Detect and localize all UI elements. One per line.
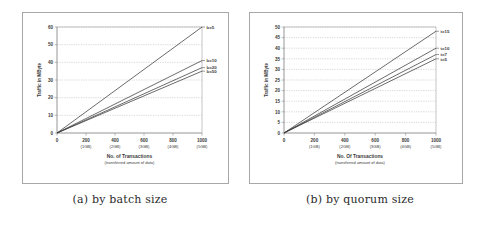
y-tick-label: 5 xyxy=(277,120,280,125)
y-tick-label: 20 xyxy=(275,88,281,93)
x-tick-label: 1000 xyxy=(431,138,442,143)
x-axis-subtitle: (transferred amount of data) xyxy=(335,160,385,165)
y-tick-label: 0 xyxy=(50,131,53,136)
x-tick-sublabel: (5GB) xyxy=(431,144,443,149)
x-tick-sublabel: (1GB) xyxy=(81,144,93,149)
y-tick-label: 15 xyxy=(275,99,281,104)
y-tick-label: 50 xyxy=(48,42,54,47)
y-axis-title: Traffic in MByte xyxy=(264,62,269,97)
y-tick-label: 50 xyxy=(275,25,281,30)
x-tick-label: 0 xyxy=(56,138,59,143)
x-tick-sublabel: (1GB) xyxy=(309,144,321,149)
series-label: b=50 xyxy=(207,69,218,74)
x-axis-title: No. of Transactions xyxy=(107,154,153,159)
y-tick-label: 40 xyxy=(48,60,54,65)
y-tick-label: 60 xyxy=(48,25,54,30)
figure-row: 01020304050600200(1GB)400(2GB)600(3GB)80… xyxy=(0,0,480,230)
x-tick-sublabel: (3GB) xyxy=(139,144,151,149)
chart-frame-b: 051015202530354045500200(1GB)400(2GB)600… xyxy=(249,12,463,184)
y-axis-title: Traffic in MByte xyxy=(37,62,42,97)
series-label: b=5 xyxy=(207,25,215,30)
x-tick-label: 600 xyxy=(371,138,379,143)
y-tick-label: 30 xyxy=(275,67,281,72)
x-tick-label: 600 xyxy=(140,138,148,143)
x-tick-sublabel: (2GB) xyxy=(110,144,122,149)
y-tick-label: 40 xyxy=(275,46,281,51)
x-tick-label: 400 xyxy=(341,138,349,143)
x-tick-label: 200 xyxy=(311,138,319,143)
x-tick-label: 200 xyxy=(82,138,90,143)
series-line xyxy=(57,68,202,133)
y-tick-label: 25 xyxy=(275,78,281,83)
figure-panel-b: 051015202530354045500200(1GB)400(2GB)600… xyxy=(240,0,480,230)
y-tick-label: 20 xyxy=(48,95,54,100)
y-tick-label: 10 xyxy=(275,110,281,115)
y-tick-label: 30 xyxy=(48,78,54,83)
line-chart-batch-size: 01020304050600200(1GB)400(2GB)600(3GB)80… xyxy=(23,13,228,183)
y-tick-label: 10 xyxy=(48,113,54,118)
series-label: b=10 xyxy=(207,58,218,63)
series-label: t=5 xyxy=(441,57,448,62)
series-line xyxy=(284,31,436,133)
y-tick-label: 0 xyxy=(277,131,280,136)
series-line xyxy=(284,59,436,133)
chart-frame-a: 01020304050600200(1GB)400(2GB)600(3GB)80… xyxy=(22,12,229,184)
x-tick-sublabel: (4GB) xyxy=(168,144,180,149)
x-tick-sublabel: (4GB) xyxy=(400,144,412,149)
y-tick-label: 35 xyxy=(275,57,281,62)
x-tick-sublabel: (3GB) xyxy=(370,144,382,149)
series-label: t=10 xyxy=(441,46,450,51)
x-tick-sublabel: (5GB) xyxy=(197,144,209,149)
x-tick-label: 400 xyxy=(111,138,119,143)
x-tick-label: 800 xyxy=(169,138,177,143)
x-axis-title: No. Of Transactions xyxy=(337,154,383,159)
y-tick-label: 45 xyxy=(275,35,281,40)
x-axis-subtitle: (transferred amount of data) xyxy=(105,160,155,165)
figure-panel-a: 01020304050600200(1GB)400(2GB)600(3GB)80… xyxy=(0,0,240,230)
line-chart-quorum-size: 051015202530354045500200(1GB)400(2GB)600… xyxy=(250,13,462,183)
x-tick-sublabel: (2GB) xyxy=(339,144,351,149)
panel-caption-a: (a) by batch size xyxy=(0,193,240,206)
x-tick-label: 0 xyxy=(283,138,286,143)
series-line xyxy=(57,61,202,133)
series-label: t=15 xyxy=(441,29,450,34)
x-tick-label: 800 xyxy=(402,138,410,143)
x-tick-label: 1000 xyxy=(197,138,208,143)
panel-caption-b: (b) by quorum size xyxy=(240,193,480,206)
series-line xyxy=(284,55,436,133)
